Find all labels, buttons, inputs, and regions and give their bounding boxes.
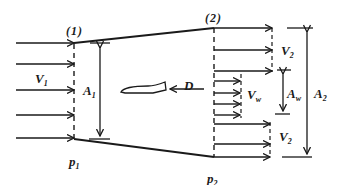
inlet-velocity-arrows (16, 43, 74, 138)
p1-label: p1 (69, 155, 80, 171)
outlet-velocity-arrows (214, 28, 272, 157)
a2-label: A2 (314, 87, 327, 103)
drag-label: D (184, 79, 193, 92)
a1-label: A1 (83, 84, 96, 100)
lower-wall (74, 139, 214, 157)
vw-label: Vw (247, 88, 261, 104)
section-2-label: (2) (205, 12, 222, 24)
body-shape-icon (121, 82, 166, 93)
v1-label: V1 (35, 72, 48, 88)
upper-wall (74, 28, 214, 43)
v2-bottom-label: V2 (279, 130, 292, 146)
section-1-label: (1) (66, 25, 83, 37)
p2-label: p2 (207, 172, 218, 185)
v2-top-label: V2 (281, 44, 294, 60)
control-volume-diagram: (1) (2) V1 A1 p1 p2 D V2 Vw Aw A2 V2 (0, 0, 341, 185)
aw-label: Aw (287, 87, 301, 103)
